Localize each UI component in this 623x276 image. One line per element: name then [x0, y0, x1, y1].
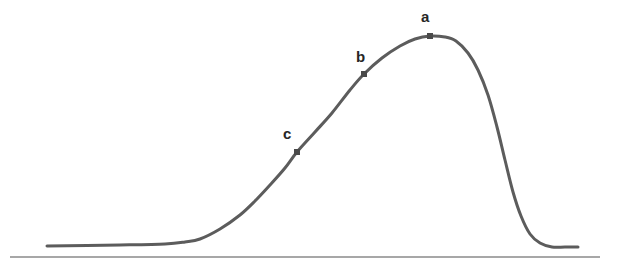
curve-point-b	[361, 71, 367, 77]
curve-figure-svg	[0, 0, 623, 276]
point-label-c: c	[283, 126, 291, 141]
distribution-curve	[47, 36, 578, 247]
figure-container: a b c	[0, 0, 623, 276]
curve-point-c	[294, 149, 300, 155]
point-label-b: b	[356, 49, 365, 64]
point-label-a: a	[421, 9, 429, 24]
curve-point-a	[427, 33, 433, 39]
